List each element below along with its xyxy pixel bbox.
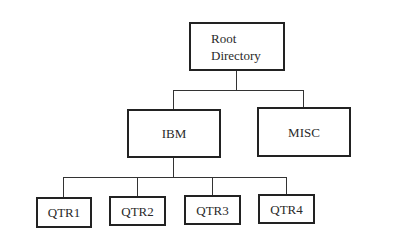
connector-to-qtr3	[212, 177, 213, 195]
misc-label: MISC	[288, 124, 320, 141]
connector-to-ibm	[173, 90, 174, 109]
ibm-node: IBM	[127, 109, 221, 158]
root-directory-label: Root Directory	[211, 30, 261, 64]
connector-to-qtr1	[63, 177, 64, 197]
root-label-line2: Directory	[211, 47, 261, 64]
connector-to-qtr2	[137, 177, 138, 196]
qtr4-label: QTR4	[270, 201, 303, 218]
qtr3-node: QTR3	[184, 195, 241, 225]
connector-to-qtr4	[286, 177, 287, 194]
qtr2-node: QTR2	[109, 196, 166, 226]
connector-level2-bar	[63, 177, 287, 178]
connector-to-misc	[303, 90, 304, 107]
connector-level1-bar	[173, 90, 304, 91]
misc-node: MISC	[257, 107, 351, 157]
connector-root-down	[236, 71, 237, 90]
root-directory-node: Root Directory	[189, 22, 285, 71]
qtr4-node: QTR4	[258, 194, 315, 224]
connector-ibm-down	[173, 158, 174, 177]
qtr1-node: QTR1	[36, 197, 92, 228]
ibm-label: IBM	[162, 125, 187, 142]
qtr2-label: QTR2	[121, 203, 154, 220]
qtr1-label: QTR1	[48, 204, 81, 221]
qtr3-label: QTR3	[196, 202, 229, 219]
root-label-line1: Root	[211, 30, 261, 47]
